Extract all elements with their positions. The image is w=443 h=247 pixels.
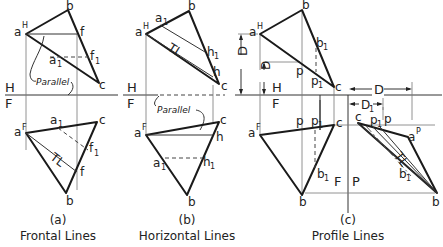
- label-b: b: [188, 0, 196, 13]
- fold-label-f: F: [272, 96, 279, 111]
- label-b: b: [66, 0, 74, 13]
- label-f: f: [80, 25, 85, 39]
- label-c-profile: c: [355, 110, 362, 124]
- parallel-leader: [30, 36, 44, 81]
- fold-label-f: F: [127, 96, 134, 111]
- label-c: c: [335, 80, 342, 94]
- dim-d-label: D: [235, 46, 250, 56]
- panel-a-frontal-lines: H F a H b f a 1 f 1 c Parallel a F a 1 c…: [5, 0, 118, 243]
- label-b-profile: b: [432, 195, 440, 209]
- dim-d-h-label: D: [374, 82, 384, 97]
- label-sup: F: [256, 123, 261, 132]
- fold-label-f-side: F: [334, 174, 341, 189]
- top-view-triangle-a: [26, 10, 99, 83]
- label-sub: 1: [94, 149, 99, 158]
- label-a1-front: a: [50, 113, 57, 127]
- dashed-a1f1-front: [58, 128, 88, 150]
- label-sup: H: [22, 21, 28, 30]
- panel-b-horizontal-lines: H F a H b a 1 h 1 h c TL Parallel a F c …: [123, 0, 235, 243]
- arrow: [406, 87, 412, 91]
- label-p-front: p: [296, 114, 304, 128]
- label-sup: F: [22, 123, 27, 132]
- fold-label-f: F: [5, 96, 12, 111]
- caption-letter-a: (a): [50, 213, 67, 227]
- label-sub: 1: [318, 81, 323, 90]
- tl-label-a: TL: [47, 149, 68, 169]
- label-a-f: a: [134, 126, 141, 140]
- label-b-front: b: [299, 195, 307, 209]
- label-a-f: a: [248, 126, 255, 140]
- arrow: [349, 87, 355, 91]
- label-c-front: c: [336, 116, 343, 130]
- label-sub: 1: [58, 120, 63, 129]
- label-b-front: b: [66, 194, 74, 208]
- label-sub: 1: [210, 162, 215, 171]
- parallel-leader: [196, 110, 204, 130]
- label-c-front: c: [220, 113, 227, 127]
- label-f-front: f: [80, 165, 85, 179]
- dim-d1-label: D: [259, 61, 273, 70]
- fold-label-h: H: [5, 80, 15, 95]
- label-sub: 1: [161, 163, 166, 172]
- front-view-triangle-c: [260, 125, 334, 195]
- caption-title-c: Profile Lines: [312, 229, 384, 243]
- label-sup: P: [416, 127, 421, 136]
- label-a1-front: a: [153, 156, 160, 170]
- dim-bg: [234, 55, 248, 69]
- label-p: p: [296, 64, 304, 78]
- label-sub: 1: [406, 174, 411, 183]
- label-sup: H: [143, 22, 149, 31]
- panel-c-profile-lines: H F F P D D a H b b 1 p p 1: [234, 0, 442, 243]
- label-c: c: [99, 78, 106, 92]
- label-a-h: a: [14, 25, 21, 39]
- caption-title-a: Frontal Lines: [20, 229, 96, 243]
- label-sub: 1: [323, 43, 328, 52]
- label-sub: 1: [324, 174, 329, 183]
- parallel-label-a: Parallel: [36, 77, 70, 87]
- label-h: h: [213, 65, 221, 79]
- label-sup: F: [142, 123, 147, 132]
- label-h-front: h: [216, 130, 224, 144]
- dim-bg: [258, 70, 270, 82]
- label-a1: a: [155, 11, 162, 25]
- label-p-profile: p: [384, 112, 392, 126]
- caption-title-b: Horizontal Lines: [139, 229, 235, 243]
- label-a-p: a: [408, 130, 415, 144]
- label-c-front: c: [99, 113, 106, 127]
- orthographic-lines-diagram: H F a H b f a 1 f 1 c Parallel a F a 1 c…: [0, 0, 443, 247]
- arrow: [377, 102, 383, 106]
- label-sub: 1: [318, 121, 323, 130]
- label-sub: 1: [163, 18, 168, 27]
- true-length-line-a: [26, 133, 77, 172]
- fold-label-h: H: [272, 80, 282, 95]
- label-a1: a: [49, 53, 56, 67]
- label-b: b: [302, 0, 310, 12]
- label-sub: 1: [377, 120, 382, 129]
- label-sub: 1: [95, 57, 100, 66]
- label-b-front: b: [188, 195, 196, 209]
- label-sup: H: [257, 22, 263, 31]
- label-a-h: a: [249, 25, 256, 39]
- fold-label-p: P: [352, 174, 360, 189]
- parallel-label-b: Parallel: [157, 105, 191, 115]
- caption-letter-c: (c): [340, 213, 356, 227]
- label-sub: 1: [57, 60, 62, 69]
- label-sub: 1: [214, 52, 219, 61]
- label-a-h: a: [135, 25, 142, 39]
- fold-label-h: H: [127, 80, 137, 95]
- label-c: c: [221, 79, 228, 93]
- arrow: [239, 34, 243, 40]
- caption-letter-b: (b): [179, 213, 196, 227]
- label-a-f: a: [14, 125, 21, 139]
- arrow: [262, 89, 266, 95]
- arrow: [239, 89, 243, 95]
- arrow: [349, 102, 355, 106]
